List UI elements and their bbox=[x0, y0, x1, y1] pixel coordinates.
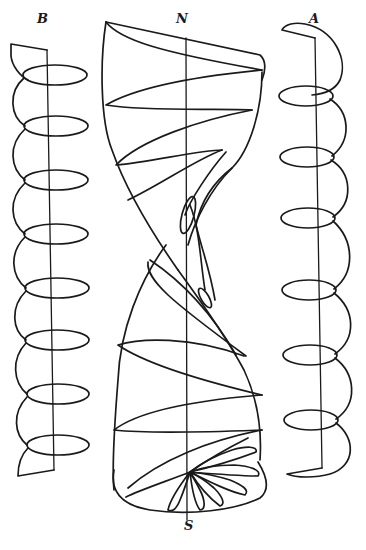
central-axis bbox=[186, 38, 187, 520]
right-helix-loop bbox=[281, 208, 335, 228]
right-helix-loop bbox=[280, 147, 334, 167]
right-helix-axis bbox=[315, 38, 322, 468]
left-helix-loop bbox=[25, 278, 89, 298]
left-silhouette-upper bbox=[102, 22, 178, 270]
right-helix-loop bbox=[279, 86, 333, 106]
left-silhouette-lower bbox=[113, 245, 166, 490]
label-s: S bbox=[184, 519, 193, 532]
waist-loop bbox=[177, 195, 198, 235]
left-helix-loop bbox=[24, 224, 88, 244]
central-surface bbox=[102, 22, 267, 520]
label-n: N bbox=[176, 12, 188, 25]
left-helix-loop bbox=[24, 116, 88, 136]
right-helix-loop bbox=[283, 345, 337, 365]
label-b: B bbox=[37, 12, 48, 25]
left-helix-b bbox=[11, 44, 89, 476]
left-helix-axis bbox=[47, 50, 54, 470]
right-helix-bottom-tail bbox=[287, 423, 350, 477]
right-helix-a bbox=[279, 23, 352, 477]
left-helix-loop bbox=[27, 384, 89, 404]
right-helix-top-tail bbox=[282, 23, 342, 95]
right-helix-loop bbox=[282, 280, 336, 300]
left-helix-loop bbox=[25, 330, 89, 350]
diagram-figure: B N A S bbox=[0, 0, 366, 550]
left-helix-loop bbox=[27, 435, 89, 455]
label-a: A bbox=[309, 12, 319, 25]
diagram-svg bbox=[0, 0, 366, 550]
left-helix-top-tail bbox=[11, 44, 47, 80]
right-helix-loop bbox=[284, 410, 338, 430]
left-helix-loop bbox=[24, 170, 88, 190]
left-helix-loop bbox=[23, 65, 87, 85]
right-silhouette-upper bbox=[188, 72, 262, 245]
